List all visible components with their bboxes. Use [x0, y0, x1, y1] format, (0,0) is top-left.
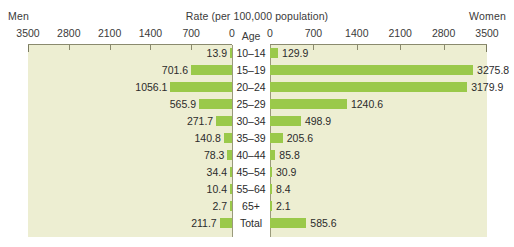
men-row-half [28, 147, 232, 164]
chart-row: 211.7Total585.6 [0, 215, 514, 232]
men-value-label: 34.4 [207, 166, 227, 178]
men-row-half [28, 62, 232, 79]
women-tick-2800: 2800 [432, 27, 455, 39]
women-value-label: 3179.9 [471, 81, 503, 93]
women-bar [270, 167, 272, 177]
age-group-label: 45–54 [232, 166, 270, 178]
women-tick-3500: 3500 [475, 27, 498, 39]
women-bar [270, 48, 278, 58]
chart-row: 140.835–39205.6 [0, 130, 514, 147]
men-bar [216, 116, 232, 126]
men-bar [220, 218, 232, 228]
women-value-label: 1240.6 [351, 98, 383, 110]
women-value-label: 8.4 [276, 183, 291, 195]
women-bar [270, 65, 473, 75]
women-value-label: 30.9 [276, 166, 296, 178]
women-bar [270, 99, 347, 109]
men-row-half [28, 181, 232, 198]
women-bar [270, 133, 283, 143]
age-group-label: Total [232, 217, 270, 229]
age-group-label: 65+ [232, 200, 270, 212]
women-value-label: 3275.8 [477, 64, 509, 76]
age-group-label: 25–29 [232, 98, 270, 110]
chart-row: 701.615–193275.8 [0, 62, 514, 79]
women-row-half [270, 79, 487, 96]
men-row-half [28, 164, 232, 181]
men-row-half [28, 198, 232, 215]
age-group-label: 15–19 [232, 64, 270, 76]
women-value-label: 205.6 [287, 132, 313, 144]
women-row-half [270, 147, 487, 164]
chart-row: 34.445–5430.9 [0, 164, 514, 181]
women-row-half [270, 113, 487, 130]
women-bar [270, 201, 272, 211]
chart-row: 10.455–648.4 [0, 181, 514, 198]
women-row-half [270, 215, 487, 232]
women-value-label: 498.9 [305, 115, 331, 127]
age-group-label: 35–39 [232, 132, 270, 144]
men-row-half [28, 96, 232, 113]
men-value-label: 10.4 [207, 183, 227, 195]
women-bar [270, 150, 275, 160]
age-group-label: 30–34 [232, 115, 270, 127]
chart-row: 78.340–4485.8 [0, 147, 514, 164]
women-row-half [270, 181, 487, 198]
women-row-half [270, 62, 487, 79]
women-row-half [270, 198, 487, 215]
age-group-label: 40–44 [232, 149, 270, 161]
men-value-label: 701.6 [162, 64, 188, 76]
women-value-label: 2.1 [276, 200, 291, 212]
men-bar [170, 82, 232, 92]
women-value-label: 585.6 [310, 217, 336, 229]
men-value-label: 1056.1 [135, 81, 167, 93]
women-value-label: 129.9 [282, 47, 308, 59]
men-bar [199, 99, 232, 109]
chart-row: 271.730–34498.9 [0, 113, 514, 130]
chart-row: 2.765+2.1 [0, 198, 514, 215]
men-value-label: 78.3 [204, 149, 224, 161]
women-row-half [270, 164, 487, 181]
women-bar [270, 82, 467, 92]
chart-row: 1056.120–243179.9 [0, 79, 514, 96]
men-value-label: 140.8 [195, 132, 221, 144]
men-value-label: 13.9 [207, 47, 227, 59]
men-value-label: 565.9 [170, 98, 196, 110]
women-tick-700: 700 [305, 27, 323, 39]
women-bar [270, 116, 301, 126]
chart-row: 13.910–14129.9 [0, 45, 514, 62]
chart-title: Rate (per 100,000 population) [0, 10, 514, 22]
women-tick-2100: 2100 [389, 27, 412, 39]
age-group-label: 10–14 [232, 47, 270, 59]
chart-row: 565.925–291240.6 [0, 96, 514, 113]
men-row-half [28, 79, 232, 96]
men-bar [191, 65, 232, 75]
age-group-label: 55–64 [232, 183, 270, 195]
men-bar [224, 133, 232, 143]
age-column-header: Age [232, 30, 270, 42]
women-bar [270, 218, 306, 228]
age-group-label: 20–24 [232, 81, 270, 93]
men-value-label: 211.7 [191, 217, 217, 229]
men-value-label: 271.7 [187, 115, 213, 127]
population-pyramid-chart: Men Women Rate (per 100,000 population) … [0, 0, 514, 247]
men-row-half [28, 45, 232, 62]
men-value-label: 2.7 [212, 200, 227, 212]
women-tick-1400: 1400 [345, 27, 368, 39]
women-bar [270, 184, 272, 194]
women-value-label: 85.8 [279, 149, 299, 161]
